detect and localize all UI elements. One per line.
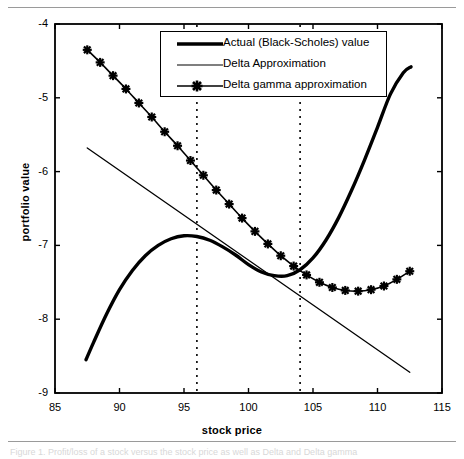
legend-label-actual: Actual (Black-Scholes) value [223, 36, 369, 48]
star-marker-icon [289, 262, 298, 271]
legend-item-actual: Actual (Black-Scholes) value [161, 33, 388, 55]
star-marker-icon [96, 58, 105, 67]
x-tick-label: 100 [229, 401, 269, 413]
star-marker-icon [225, 200, 234, 209]
x-tick-label: 95 [164, 401, 204, 413]
star-marker-icon [276, 251, 285, 260]
x-tick-label: 85 [35, 401, 75, 413]
y-tick-label: -9 [18, 386, 48, 398]
star-marker-icon [315, 278, 324, 287]
star-marker-icon [199, 171, 208, 180]
star-marker-icon [392, 275, 401, 284]
star-marker-icon [405, 267, 414, 276]
star-marker-icon [367, 285, 376, 294]
y-tick-label: -4 [18, 17, 48, 29]
star-marker-icon [192, 81, 203, 92]
star-marker-icon [379, 281, 388, 290]
legend-swatch-thick-line [175, 33, 225, 55]
x-tick-label: 105 [293, 401, 333, 413]
chart-legend: Actual (Black-Scholes) value Delta Appro… [160, 31, 387, 97]
legend-swatch-thin-line [175, 54, 225, 76]
star-marker-icon [83, 45, 92, 54]
star-marker-icon [354, 287, 363, 296]
x-tick-label: 110 [358, 401, 398, 413]
legend-item-delta-gamma: Delta gamma approximation [161, 75, 388, 97]
legend-item-delta: Delta Approximation [161, 54, 388, 76]
y-tick-label: -8 [18, 312, 48, 324]
star-marker-icon [186, 156, 195, 165]
figure-caption: Figure 1. Profit/loss of a stock versus … [10, 447, 456, 458]
star-marker-icon [160, 127, 169, 136]
star-marker-icon [238, 214, 247, 223]
legend-label-delta: Delta Approximation [223, 57, 326, 69]
star-marker-icon [109, 71, 118, 80]
legend-label-delta-gamma: Delta gamma approximation [223, 78, 367, 90]
star-marker-icon [147, 112, 156, 121]
legend-swatch-star-line [175, 75, 225, 97]
bottom-divider-rule [8, 441, 456, 442]
x-axis-title: stock price [0, 424, 464, 436]
star-marker-icon [341, 286, 350, 295]
figure-container: 859095100105110115 -9-8-7-6-5-4 Actual (… [0, 0, 464, 459]
star-marker-icon [121, 84, 130, 93]
star-marker-icon [250, 227, 259, 236]
x-tick-label: 115 [422, 401, 462, 413]
star-marker-icon [328, 283, 337, 292]
star-marker-icon [263, 239, 272, 248]
y-tick-label: -5 [18, 91, 48, 103]
star-marker-icon [134, 98, 143, 107]
x-tick-label: 90 [100, 401, 140, 413]
series-1 [87, 148, 410, 372]
star-marker-icon [212, 186, 221, 195]
star-marker-icon [302, 270, 311, 279]
y-axis-title: portfolio value [19, 132, 31, 272]
series-0 [86, 67, 411, 360]
star-marker-icon [173, 141, 182, 150]
plot-area: 859095100105110115 -9-8-7-6-5-4 Actual (… [0, 0, 464, 400]
